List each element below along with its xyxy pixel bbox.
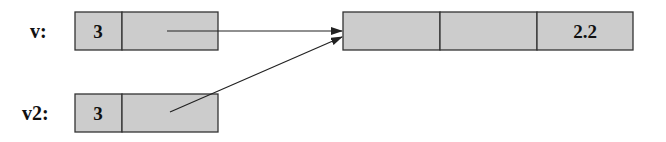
size-value-v2: 3: [93, 103, 103, 124]
size-value-v: 3: [93, 21, 103, 42]
var-label-v2: v2:: [22, 102, 49, 124]
vector-header-v2: 3: [75, 94, 218, 132]
array-value-2: 2.2: [573, 21, 597, 42]
vector-diagram: v: 3 v2: 3 2.2: [0, 0, 666, 142]
var-label-v: v:: [30, 20, 47, 42]
heap-array: 2.2: [343, 12, 633, 50]
array-cell-1: [440, 12, 537, 50]
pointer-cell-v2: [122, 94, 218, 132]
array-cell-0: [343, 12, 440, 50]
